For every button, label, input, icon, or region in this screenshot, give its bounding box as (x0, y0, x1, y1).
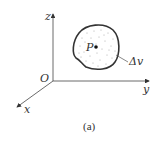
origin-label: O (40, 72, 49, 85)
z-axis-label: z (44, 10, 51, 23)
volume-label: Δv (128, 55, 144, 68)
x-axis-label: x (24, 103, 31, 116)
point-p (94, 45, 98, 49)
figure-caption: (a) (83, 120, 96, 133)
coordinate-diagram: z O y x P Δv (a) (0, 0, 160, 141)
point-p-label: P (85, 41, 94, 54)
y-axis-label: y (142, 83, 150, 96)
